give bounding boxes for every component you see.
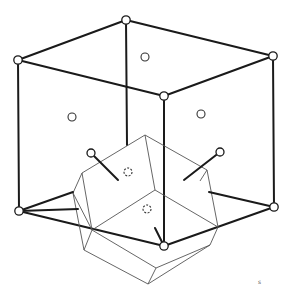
bond-atom-right <box>216 148 224 156</box>
face-atom-top <box>141 53 149 61</box>
face-atom-left <box>68 113 76 121</box>
bond-atom-left <box>87 149 95 157</box>
corner-atom-right-bottom <box>270 203 278 211</box>
unit-cell-diagram: s <box>0 0 289 294</box>
corner-atom-front-bottom <box>160 242 168 250</box>
hidden-atom-lower <box>143 205 151 213</box>
corner-atom-left-bottom <box>15 207 23 215</box>
crystal-structure-drawing <box>0 0 289 294</box>
bonded-atoms <box>87 148 224 157</box>
corner-atom-right-top <box>269 52 277 60</box>
corner-atom-front-top <box>160 92 168 100</box>
corner-mark: s <box>258 278 261 285</box>
corner-atom-back-top <box>122 16 130 24</box>
corner-atom-left-top <box>14 56 22 64</box>
face-atom-right <box>197 110 205 118</box>
face-center-atoms <box>68 53 205 121</box>
corner-atoms <box>14 16 278 250</box>
hidden-atoms <box>124 168 151 213</box>
bonds <box>19 152 274 246</box>
hidden-atom-upper <box>124 168 132 176</box>
